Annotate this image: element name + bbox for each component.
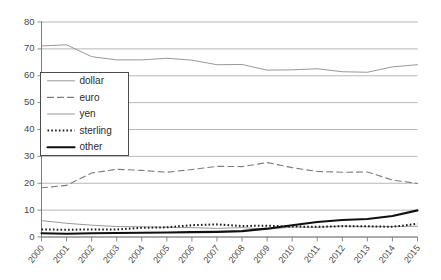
y-tick-label: 0 [29, 231, 34, 242]
x-tick-label: 2014 [377, 243, 397, 265]
legend-label-other: other [80, 141, 103, 152]
series-line-yen [42, 221, 418, 230]
y-tick-label: 60 [24, 69, 35, 80]
x-tick-label: 2008 [226, 243, 246, 265]
x-axis-labels: 2000200120022003200420052006200720082009… [26, 243, 422, 265]
chart-canvas: 01020304050607080 2000200120022003200420… [0, 0, 441, 280]
x-tick-label: 2002 [76, 243, 96, 265]
series-line-other [42, 210, 418, 233]
x-axis-ticks [42, 237, 418, 242]
x-tick-label: 2000 [26, 243, 46, 265]
series-line-euro [42, 163, 418, 188]
x-tick-label: 2012 [327, 243, 347, 265]
line-chart: 01020304050607080 2000200120022003200420… [0, 0, 441, 280]
y-tick-label: 80 [24, 16, 35, 27]
x-tick-label: 2007 [201, 243, 221, 265]
y-tick-label: 10 [24, 204, 35, 215]
legend-label-dollar: dollar [80, 75, 105, 86]
x-tick-label: 2003 [101, 243, 121, 265]
y-tick-label: 50 [24, 96, 35, 107]
y-tick-label: 40 [24, 123, 35, 134]
series-line-sterling [42, 224, 418, 230]
x-tick-label: 2006 [176, 243, 196, 265]
y-tick-label: 30 [24, 150, 35, 161]
y-axis-labels: 01020304050607080 [24, 16, 35, 242]
legend-label-yen: yen [80, 108, 96, 119]
legend-label-euro: euro [80, 92, 100, 103]
x-tick-label: 2004 [126, 243, 146, 265]
x-tick-label: 2011 [302, 243, 322, 264]
x-tick-label: 2001 [51, 243, 71, 265]
chart-legend: dollareuroyensterlingother [41, 73, 129, 156]
legend-label-sterling: sterling [80, 125, 112, 136]
x-tick-label: 2015 [402, 243, 422, 265]
x-tick-label: 2009 [251, 243, 271, 265]
y-tick-label: 70 [24, 42, 35, 53]
y-tick-label: 20 [24, 177, 35, 188]
x-tick-label: 2013 [352, 243, 372, 265]
x-tick-label: 2010 [277, 243, 297, 265]
x-tick-label: 2005 [151, 243, 171, 265]
